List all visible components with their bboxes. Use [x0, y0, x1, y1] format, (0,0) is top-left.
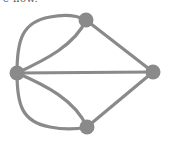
node-right: [146, 65, 161, 80]
edge-left-right: [17, 72, 153, 73]
node-left: [10, 66, 25, 81]
node-bottom: [80, 120, 95, 135]
graph-diagram: [0, 0, 169, 145]
edge-top-right: [86, 20, 153, 72]
node-top: [79, 13, 94, 28]
edge-bottom-right: [87, 72, 153, 127]
edge-left-bottom-outer: [17, 73, 87, 129]
edge-left-bottom-inner: [17, 73, 87, 127]
edge-left-top-outer: [17, 16, 86, 73]
